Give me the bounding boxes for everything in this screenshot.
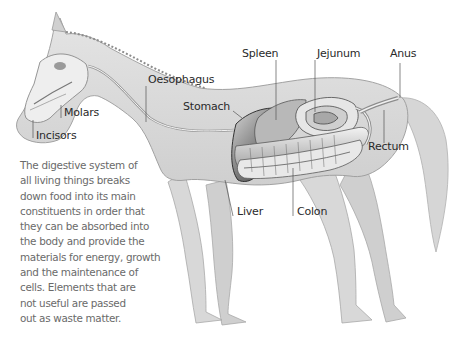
- label-oesophagus: Oesophagus: [148, 73, 214, 86]
- label-liver: Liver: [237, 205, 263, 218]
- caption-line: not useful are passed: [20, 296, 162, 311]
- digestive-diagram: Spleen Jejunum Anus Oesophagus Stomach M…: [0, 0, 458, 341]
- label-rectum: Rectum: [368, 140, 409, 153]
- label-anus: Anus: [390, 47, 416, 60]
- label-molars: Molars: [64, 106, 99, 119]
- caption-line: the body and provide the: [20, 234, 162, 249]
- caption-line: The digestive system of: [20, 158, 162, 173]
- caption-line: down food into its main: [20, 189, 162, 204]
- caption-line: they can be absorbed into: [20, 219, 162, 234]
- caption-line: out as waste matter.: [20, 311, 162, 326]
- caption-line: materials for energy, growth: [20, 250, 162, 265]
- eye-socket: [54, 62, 66, 70]
- caption-line: and the maintenance of: [20, 265, 162, 280]
- label-spleen: Spleen: [242, 47, 278, 60]
- label-jejunum: Jejunum: [317, 47, 360, 60]
- ear: [52, 12, 66, 32]
- caption-line: constituents in order that: [20, 204, 162, 219]
- caption-line: all living things breaks: [20, 173, 162, 188]
- label-incisors: Incisors: [36, 129, 76, 142]
- label-colon: Colon: [297, 205, 327, 218]
- front-leg-far: [206, 180, 246, 325]
- label-stomach: Stomach: [183, 100, 230, 113]
- caption-paragraph: The digestive system of all living thing…: [20, 158, 162, 326]
- caption-line: cells. Elements that are: [20, 280, 162, 295]
